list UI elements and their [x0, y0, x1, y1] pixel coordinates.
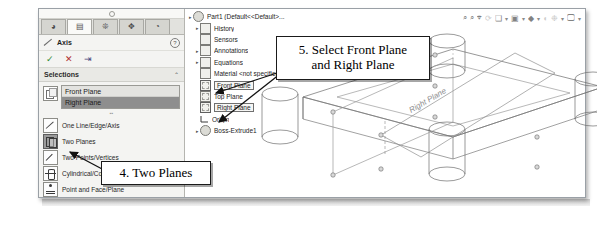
selections-header[interactable]: Selections ⌃	[39, 68, 184, 82]
cancel-button[interactable]: ✕	[65, 55, 73, 64]
callout-5-line-2: and Right Plane	[299, 58, 407, 73]
sensors-icon	[200, 34, 211, 45]
property-manager-tabstrip: ◕ ▤ ❊ ✥ ◔	[39, 19, 184, 35]
feature-manager-design-tree-icon: ◕	[51, 23, 56, 31]
property-manager-title: Axis	[57, 39, 72, 46]
annotations-icon	[200, 45, 211, 56]
display-style-icon[interactable]: ▣	[511, 14, 519, 23]
tree-item-front-plane[interactable]: Front Plane	[187, 79, 313, 90]
option-one-line-edge-axis[interactable]: One Line/Edge/Axis	[43, 117, 184, 133]
plane-icon	[200, 102, 211, 113]
tree-item-part1[interactable]: ▸ Part1 (Default<<Default>...	[187, 11, 313, 22]
plane-icon	[200, 80, 211, 91]
property-manager-actions: ✓ ✕ ⇥	[39, 51, 184, 68]
edit-appearance-icon[interactable]: ◐	[543, 14, 548, 23]
part-icon	[193, 11, 204, 22]
equations-icon	[200, 57, 211, 68]
history-icon	[200, 23, 211, 34]
property-manager-title-bar: Axis ?	[39, 35, 184, 51]
tree-item-label: Sensors	[214, 36, 238, 43]
window-drop-shadow	[42, 199, 590, 206]
tree-item-label: Part1 (Default<<Default>...	[207, 13, 285, 20]
selections-body: Front Plane Right Plane	[39, 82, 184, 111]
plane-icon	[200, 91, 211, 102]
two-points-vertices-icon	[43, 150, 58, 165]
option-label: Two Planes	[62, 138, 96, 145]
two-planes-icon	[43, 134, 58, 149]
accept-button[interactable]: ✓	[46, 55, 54, 64]
origin-icon	[200, 115, 209, 124]
tree-item-top-plane[interactable]: Top Plane	[187, 91, 313, 102]
boss-extrude-icon	[200, 125, 211, 136]
detach-button[interactable]: ⇥	[84, 55, 92, 64]
panel-pin-bar[interactable]	[39, 9, 184, 19]
material-icon	[200, 68, 211, 79]
apply-scene-icon[interactable]: ❉	[551, 14, 558, 23]
selection-item-front-plane[interactable]: Front Plane	[62, 86, 179, 97]
selections-label: Selections	[44, 71, 79, 78]
tab-feature-manager-design-tree[interactable]: ◕	[41, 19, 66, 34]
one-line-edge-axis-icon	[43, 118, 58, 133]
pin-icon[interactable]	[109, 11, 115, 17]
tree-item-label: Boss-Extrude1	[214, 127, 257, 134]
callout-5-line-1: 5. Select Front Plane	[299, 43, 407, 58]
tab-configuration-manager[interactable]: ❊	[93, 19, 118, 34]
rotate-view-icon[interactable]: ⟳	[485, 14, 492, 23]
tree-item-label: History	[214, 25, 234, 32]
reference-entities-icon	[43, 86, 58, 101]
cylindrical-conical-face-icon	[43, 166, 58, 181]
dimxpert-manager-icon: ✥	[128, 23, 135, 31]
option-two-planes[interactable]: Two Planes	[43, 133, 184, 149]
tree-item-right-plane[interactable]: Right Plane	[187, 102, 313, 113]
zoom-to-area-icon[interactable]: ⌕	[470, 13, 474, 23]
option-label: Two Points/Vertices	[62, 154, 119, 161]
selections-listbox[interactable]: Front Plane Right Plane	[61, 85, 180, 109]
tree-item-label: Equations	[214, 59, 243, 66]
hide-show-items-icon[interactable]: ◆	[528, 14, 534, 23]
selection-item-right-plane[interactable]: Right Plane	[62, 97, 179, 108]
caret-icon[interactable]: ▾	[522, 15, 525, 22]
tree-item-boss-extrude1[interactable]: ▸ Boss-Extrude1	[187, 125, 313, 136]
view-orientation-icon[interactable]: ❏	[495, 14, 502, 23]
tree-item-label: Annotations	[214, 47, 248, 54]
chevron-up-icon[interactable]: ⌃	[174, 71, 179, 78]
tree-item-origin[interactable]: Origin	[187, 114, 313, 125]
view-settings-icon[interactable]: 🖵	[567, 13, 575, 23]
tree-item-label: Material <not specified>	[214, 70, 283, 77]
tree-item-history[interactable]: ▸ History	[187, 22, 313, 33]
axis-icon	[43, 38, 54, 47]
caret-icon[interactable]: ▾	[561, 15, 564, 22]
configuration-manager-icon: ❊	[102, 23, 109, 31]
heads-up-view-toolbar: ⌕ ⌕ ⌖ ⟳ ❏ ▾ ▣ ▾ ◆ ▾ ◐ ❉ ▾ 🖵 ▾	[463, 11, 581, 25]
caret-icon[interactable]: ▾	[578, 15, 581, 22]
option-label: Point and Face/Plane	[62, 186, 124, 193]
help-icon[interactable]: ?	[170, 38, 180, 48]
tree-item-label: Top Plane	[214, 93, 243, 100]
property-manager-icon: ▤	[76, 23, 84, 31]
point-and-face-plane-icon	[43, 182, 58, 197]
option-label: One Line/Edge/Axis	[62, 122, 119, 129]
callout-5: 5. Select Front Plane and Right Plane	[276, 36, 430, 80]
tree-item-label: Right Plane	[214, 103, 254, 112]
tree-item-label: Origin	[212, 116, 229, 123]
tab-display-manager[interactable]: ◔	[145, 19, 170, 34]
display-manager-icon: ◔	[155, 23, 160, 31]
tree-item-label: Front Plane	[214, 81, 254, 90]
tab-dimxpert-manager[interactable]: ✥	[119, 19, 144, 34]
callout-4: 4. Two Planes	[101, 161, 211, 185]
tab-property-manager[interactable]: ▤	[67, 19, 92, 34]
zoom-to-fit-icon[interactable]: ⌕	[463, 13, 467, 23]
zoom-in-out-icon[interactable]: ⌖	[477, 13, 482, 23]
plane-label: Right Plane	[408, 86, 449, 115]
caret-icon[interactable]: ▾	[505, 15, 508, 22]
caret-icon[interactable]: ▾	[537, 15, 540, 22]
